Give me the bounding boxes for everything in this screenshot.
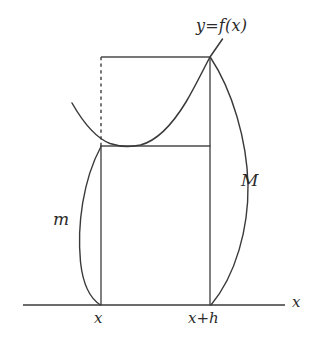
x-axis-label: x (292, 295, 300, 310)
max-height-label: M (241, 172, 258, 189)
calculus-diagram: y=f(x) m M x x+h x (0, 0, 319, 350)
tick-label-x: x (94, 311, 102, 326)
function-curve (72, 39, 223, 146)
curve-label: y=f(x) (196, 18, 247, 34)
min-height-label: m (53, 211, 69, 228)
tick-label-x-plus-h: x+h (188, 311, 219, 326)
bracket-m (80, 147, 101, 306)
diagram-canvas (0, 0, 319, 350)
